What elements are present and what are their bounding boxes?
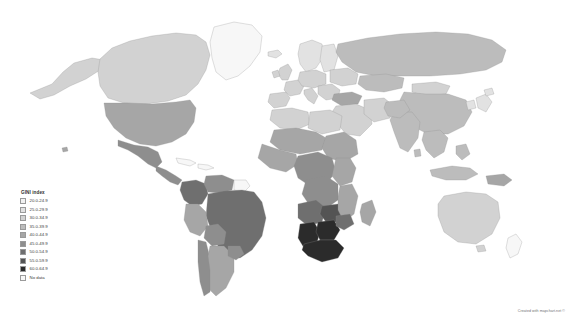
country-germany-poland[interactable]	[298, 70, 326, 88]
legend-entry[interactable]: No data	[20, 275, 80, 281]
island-hawaii[interactable]	[62, 147, 68, 152]
legend-entry[interactable]: 35.0-39.9	[20, 224, 80, 230]
attribution-text: Created with mapchart.net ©	[518, 309, 565, 313]
legend-swatch	[20, 266, 26, 272]
legend-swatch	[20, 249, 26, 255]
legend-label: 25.0-29.9	[30, 208, 48, 212]
legend-swatch	[20, 224, 26, 230]
legend-entry[interactable]: 60.0-64.9	[20, 266, 80, 272]
world-map-figure: GINI index 20.0-24.925.0-29.930.0-34.935…	[0, 0, 573, 329]
legend-title: GINI index	[21, 191, 80, 196]
legend-label: No data	[30, 276, 45, 280]
legend-entry[interactable]: 45.0-49.9	[20, 241, 80, 247]
map-legend: GINI index 20.0-24.925.0-29.930.0-34.935…	[20, 191, 80, 283]
legend-label: 55.0-59.9	[30, 259, 48, 263]
legend-swatch	[20, 275, 26, 281]
legend-entry[interactable]: 50.0-54.9	[20, 249, 80, 255]
legend-swatch	[20, 207, 26, 213]
island-sri-lanka[interactable]	[414, 149, 421, 157]
legend-entry[interactable]: 25.0-29.9	[20, 207, 80, 213]
legend-label: 20.0-24.9	[30, 199, 48, 203]
legend-entry[interactable]: 55.0-59.9	[20, 258, 80, 264]
legend-entry-list: 20.0-24.925.0-29.930.0-34.935.0-39.940.0…	[20, 198, 80, 281]
legend-swatch	[20, 215, 26, 221]
legend-swatch	[20, 258, 26, 264]
country-korea[interactable]	[466, 100, 476, 110]
legend-label: 45.0-49.9	[30, 242, 48, 246]
legend-entry[interactable]: 40.0-44.9	[20, 232, 80, 238]
legend-entry[interactable]: 20.0-24.9	[20, 198, 80, 204]
legend-label: 40.0-44.9	[30, 233, 48, 237]
legend-swatch	[20, 198, 26, 204]
legend-entry[interactable]: 30.0-34.9	[20, 215, 80, 221]
legend-label: 30.0-34.9	[30, 216, 48, 220]
legend-swatch	[20, 232, 26, 238]
legend-label: 50.0-54.9	[30, 250, 48, 254]
world-map-canvas[interactable]	[0, 0, 573, 329]
legend-swatch	[20, 241, 26, 247]
legend-label: 35.0-39.9	[30, 225, 48, 229]
legend-label: 60.0-64.9	[30, 267, 48, 271]
